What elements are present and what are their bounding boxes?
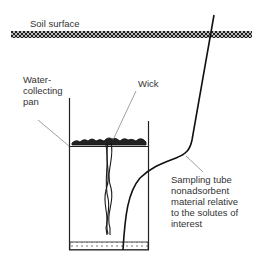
pan-label-line-2: collecting	[23, 85, 63, 96]
wick	[105, 143, 112, 235]
pan-label-line-3: pan	[23, 96, 63, 107]
tube-leader-line	[186, 156, 203, 172]
pan-label-line-1: Water-	[23, 74, 63, 85]
tube-label-line-2: nonadsorbent	[171, 185, 238, 196]
pan-leader-line	[38, 120, 69, 146]
soil-surface-band	[11, 31, 252, 38]
wick-top-layer	[72, 138, 146, 145]
tube-label-line-5: interest	[171, 218, 238, 229]
water-collecting-pan-label: Water- collecting pan	[23, 74, 63, 107]
tube-label-line-1: Sampling tube	[171, 174, 238, 185]
soil-surface-label: Soil surface	[30, 18, 80, 29]
tube-label-line-4: to the solutes of	[171, 207, 238, 218]
sampling-tube-label: Sampling tube nonadsorbent material rela…	[171, 174, 238, 229]
wick-label: Wick	[138, 78, 159, 89]
pan-bottom-layer	[70, 242, 148, 250]
tube-label-line-3: material relative	[171, 196, 238, 207]
wick-leader-line	[113, 91, 136, 140]
